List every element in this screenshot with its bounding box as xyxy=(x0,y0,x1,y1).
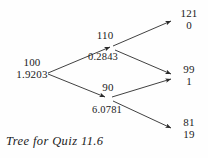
node-leaf-top-value: 121 xyxy=(176,8,202,20)
node-down: 90 xyxy=(96,82,120,94)
node-root: 100 1.9203 xyxy=(10,57,54,80)
node-leaf-mid-value: 99 xyxy=(176,64,202,76)
node-up-secondary-value: 0.2843 xyxy=(88,51,118,62)
node-leaf-mid-secondary-value: 1 xyxy=(176,76,202,88)
node-leaf-bottom-value: 81 xyxy=(176,117,202,129)
edge-down-to-leaf-mid xyxy=(112,79,171,97)
tree-diagram-figure: 100 1.9203 110 0.2843 90 6.0781 121 0 99… xyxy=(0,0,208,158)
node-root-secondary-value: 1.9203 xyxy=(10,69,54,81)
node-leaf-bottom-secondary-value: 19 xyxy=(176,129,202,141)
node-leaf-top: 121 0 xyxy=(176,8,202,31)
node-up-value: 110 xyxy=(93,30,117,42)
edge-up-to-leaf-mid xyxy=(115,50,171,74)
node-down-value: 90 xyxy=(96,82,120,94)
node-leaf-top-secondary-value: 0 xyxy=(176,20,202,32)
node-root-value: 100 xyxy=(10,57,54,69)
figure-caption: Tree for Quiz 11.6 xyxy=(6,134,103,149)
node-leaf-mid: 99 1 xyxy=(176,64,202,87)
edge-up-to-leaf-top xyxy=(113,21,171,46)
node-up: 110 xyxy=(93,30,117,42)
node-down-secondary-value: 6.0781 xyxy=(92,104,122,115)
node-leaf-bottom: 81 19 xyxy=(176,117,202,140)
